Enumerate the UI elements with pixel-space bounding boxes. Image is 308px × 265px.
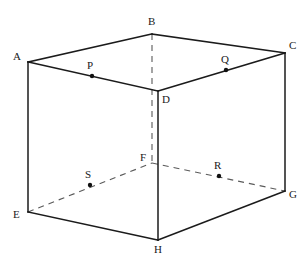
hidden-edges-group: [28, 34, 285, 212]
edge-e-h: [28, 212, 158, 240]
point-marker-p: [90, 74, 94, 78]
point-marker-r: [217, 174, 221, 178]
point-label-q: Q: [221, 54, 229, 65]
visible-edges-group: [28, 34, 285, 240]
vertex-label-a: A: [13, 51, 21, 62]
vertex-label-e: E: [13, 209, 20, 220]
point-label-s: S: [85, 169, 91, 180]
point-marker-q: [224, 68, 228, 72]
edge-a-b: [28, 34, 152, 62]
edge-h-g: [158, 191, 285, 240]
vertex-label-b: B: [148, 16, 155, 27]
cuboid-svg: [0, 0, 308, 265]
vertex-label-d: D: [162, 94, 170, 105]
vertex-label-c: C: [289, 40, 296, 51]
cuboid-diagram: ABCDEFGHPQRS: [0, 0, 308, 265]
vertex-label-h: H: [154, 244, 162, 255]
point-label-p: P: [87, 60, 93, 71]
vertex-label-g: G: [289, 189, 297, 200]
point-marker-s: [88, 183, 92, 187]
vertex-label-f: F: [140, 152, 146, 163]
edge-b-c: [152, 34, 285, 53]
point-label-r: R: [214, 160, 221, 171]
